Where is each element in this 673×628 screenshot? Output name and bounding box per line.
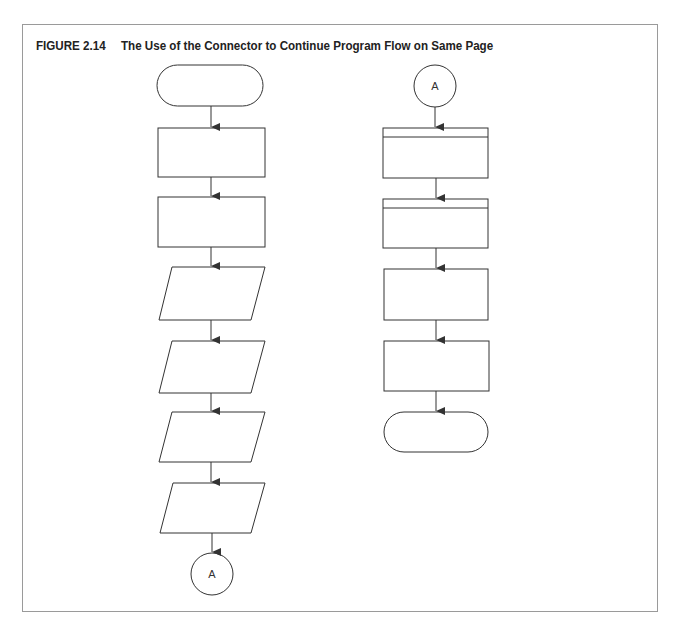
right-predefined-1 — [383, 128, 488, 178]
flowchart: A A — [0, 0, 673, 628]
left-io-3 — [159, 412, 265, 462]
right-connector-label: A — [431, 80, 439, 92]
right-process-2 — [384, 341, 489, 391]
left-io-2 — [159, 341, 265, 393]
left-process-2 — [158, 197, 265, 247]
right-terminal-end — [384, 412, 488, 452]
left-terminal-start — [157, 65, 263, 106]
left-io-1 — [159, 267, 265, 320]
left-io-4 — [160, 483, 265, 533]
right-process-1 — [384, 269, 488, 320]
right-predefined-2 — [383, 199, 488, 248]
left-process-1 — [158, 128, 265, 177]
left-connector-label: A — [208, 568, 216, 580]
